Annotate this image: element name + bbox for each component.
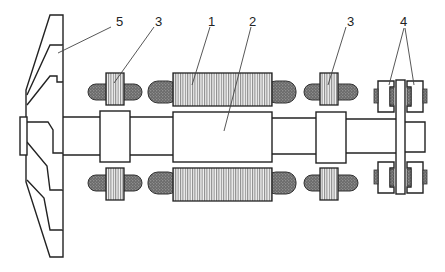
main-magnet-core-top — [173, 73, 272, 106]
left-collar — [100, 111, 130, 162]
shaft-end-cap — [20, 117, 27, 155]
impeller-wheel — [20, 15, 63, 257]
brake-disc — [396, 80, 405, 194]
label-1: 1 — [208, 14, 215, 29]
bottom-row — [88, 168, 358, 201]
label-2: 2 — [249, 14, 256, 29]
label-5: 5 — [116, 14, 123, 29]
left-small-magnet-bottom — [106, 168, 124, 200]
top-row — [88, 73, 358, 106]
label-3-left: 3 — [155, 14, 162, 29]
right-collar — [316, 112, 346, 163]
left-small-magnet-top — [106, 73, 124, 105]
central-rotor-hub — [173, 112, 272, 162]
mechanical-assembly-diagram: 5 3 1 2 3 4 — [0, 0, 445, 272]
right-small-magnet-top — [320, 73, 338, 105]
label-4: 4 — [400, 14, 407, 29]
main-magnet-core-bottom — [173, 168, 272, 201]
label-3-right: 3 — [347, 14, 354, 29]
right-small-magnet-bottom — [320, 168, 338, 200]
